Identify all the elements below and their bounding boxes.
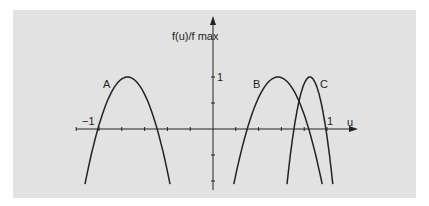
curve-a	[85, 77, 170, 184]
curve-label-a: A	[103, 78, 111, 90]
curve-label-b: B	[253, 78, 260, 90]
y-axis-label: f(u)/f max	[172, 30, 219, 42]
curve-label-c: C	[320, 78, 328, 90]
y-axis-arrow-icon	[210, 16, 216, 25]
chart-svg: f(u)/f max u −1 1 1 A B C	[0, 0, 429, 206]
curve-b	[234, 77, 322, 184]
x-axis-label: u	[347, 116, 353, 128]
axes	[76, 16, 358, 190]
x-tick-label-1: 1	[327, 115, 333, 127]
x-tick-label-neg1: −1	[82, 115, 95, 127]
y-tick-label-1: 1	[217, 71, 223, 83]
